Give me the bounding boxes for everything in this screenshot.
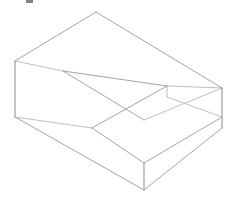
drawing-canvas: Isometric Stepped Block Wireframe steppe… xyxy=(0,0,232,199)
isometric-block-drawing xyxy=(0,0,232,199)
